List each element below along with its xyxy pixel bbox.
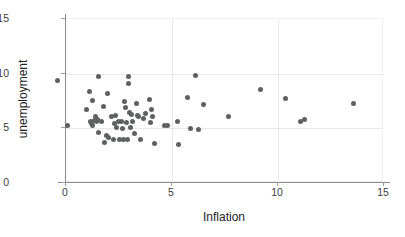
data-point [96,130,101,135]
x-axis-tick-label: 10 [271,186,283,198]
data-point [226,114,231,119]
data-point [351,101,356,106]
data-point [128,125,133,130]
data-point [302,117,307,122]
data-point [149,107,154,112]
data-point [196,127,201,132]
data-point [129,112,134,117]
data-point [147,97,152,102]
data-point [130,119,135,124]
data-point [188,126,193,131]
data-point [99,119,104,124]
y-axis-tick-label: 5 [3,121,9,133]
data-point [141,116,146,121]
data-point [113,113,118,118]
x-axis-title: Inflation [65,210,383,224]
y-axis-tick [61,73,65,74]
data-point [101,104,106,109]
data-point [185,95,190,100]
data-point [90,123,95,128]
data-point [176,142,181,147]
data-point [90,98,95,103]
data-point [152,141,157,146]
data-point [132,131,137,136]
scatter-chart: 051015 051015 Inflation unemployment [0,0,405,237]
data-point [123,105,128,110]
data-point [126,74,131,79]
y-axis-tick-label: 0 [3,176,9,188]
data-point [136,114,141,119]
data-point [201,102,206,107]
data-point [96,74,101,79]
data-point [138,137,143,142]
data-point [120,126,125,131]
y-axis-tick [61,18,65,19]
data-point [134,101,139,106]
y-axis-title: unemployment [16,24,30,174]
data-point [87,89,92,94]
data-point [106,135,111,140]
data-point [119,119,124,124]
data-point [175,119,180,124]
data-point [126,81,131,86]
x-axis-tick-label: 15 [377,186,389,198]
data-point [124,120,129,125]
y-axis-tick [61,127,65,128]
data-point [105,91,110,96]
x-axis-tick-label: 5 [168,186,174,198]
data-point [143,111,148,116]
data-point [102,140,107,145]
x-axis-tick-label: 0 [62,186,68,198]
data-points-layer [0,0,405,237]
y-axis-tick-label: 15 [0,12,9,24]
data-point [84,107,89,112]
y-axis-tick [61,182,65,183]
data-point [283,96,288,101]
data-point [122,99,127,104]
data-point [148,120,153,125]
data-point [165,123,170,128]
data-point [125,137,130,142]
data-point [258,87,263,92]
data-point [193,73,198,78]
data-point [65,123,70,128]
y-axis-tick-label: 10 [0,67,9,79]
data-point [111,137,116,142]
data-point [114,125,119,130]
data-point [150,114,155,119]
